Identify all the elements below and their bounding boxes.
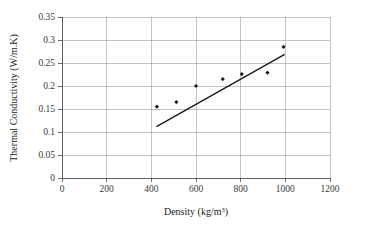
y-axis-tick-marks: [58, 17, 62, 178]
y-axis-tick-label: 0.35: [38, 12, 55, 22]
x-axis-tick-label: 800: [234, 184, 249, 194]
svg-text:Thermal Conductivity (W/m.K): Thermal Conductivity (W/m.K): [8, 34, 20, 161]
x-axis-tick-label: 1200: [321, 184, 340, 194]
data-point-marker: [240, 72, 244, 76]
chart-container: 020040060080010001200 00.050.10.150.20.2…: [0, 0, 384, 226]
x-axis-tick-marks: [62, 178, 330, 182]
data-point-marker: [281, 45, 285, 49]
y-axis-title: Thermal Conductivity (W/m.K): [8, 34, 20, 161]
data-point-marker: [194, 84, 198, 88]
y-axis-tick-label: 0.25: [38, 58, 55, 68]
x-axis-title: Density (kg/m3): [164, 206, 228, 219]
y-axis-tick-label: 0: [50, 173, 55, 183]
thermal-conductivity-vs-density-scatter-chart: 020040060080010001200 00.050.10.150.20.2…: [0, 0, 384, 226]
y-axis-tick-label: 0.3: [43, 35, 55, 45]
trendline: [157, 55, 284, 127]
svg-text:Density (kg/m3): Density (kg/m3): [164, 206, 228, 219]
data-point-marker: [221, 77, 225, 81]
y-axis-tick-labels: 00.050.10.150.20.250.30.35: [38, 12, 55, 183]
data-point-markers: [155, 45, 286, 109]
x-axis-tick-label: 200: [100, 184, 115, 194]
x-axis-tick-labels: 020040060080010001200: [60, 184, 340, 194]
y-axis-tick-label: 0.05: [38, 150, 55, 160]
x-axis-tick-label: 1000: [276, 184, 295, 194]
x-axis-tick-label: 400: [144, 184, 159, 194]
data-point-marker: [174, 100, 178, 104]
data-point-marker: [265, 71, 269, 75]
data-point-marker: [155, 105, 159, 109]
trendline-series: [157, 55, 284, 127]
x-axis-tick-label: 600: [189, 184, 204, 194]
x-axis-tick-label: 0: [60, 184, 65, 194]
y-axis-tick-label: 0.2: [43, 81, 55, 91]
y-axis-tick-label: 0.15: [38, 104, 55, 114]
vertical-gridlines: [62, 17, 330, 178]
y-axis-tick-label: 0.1: [43, 127, 55, 137]
